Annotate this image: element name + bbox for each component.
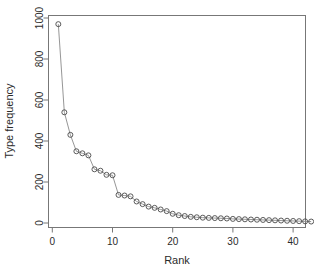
plot-frame [49,16,306,228]
x-axis-ticks: 010203040 [50,228,300,247]
y-tick-label: 1000 [34,6,45,29]
y-axis-ticks: 02004006008001000 [34,6,49,225]
y-tick-label: 200 [34,173,45,190]
x-axis-label: Rank [164,254,190,266]
x-tick-label: 0 [50,236,56,247]
y-tick-label: 800 [34,50,45,67]
data-points [56,22,314,224]
x-tick-label: 10 [107,236,119,247]
x-tick-label: 20 [167,236,179,247]
y-tick-label: 0 [34,220,45,226]
x-tick-label: 40 [288,236,300,247]
x-tick-label: 30 [227,236,239,247]
data-line [58,24,311,221]
chart-figure: 02004006008001000 010203040 Rank Type fr… [0,0,314,273]
y-tick-label: 600 [34,91,45,108]
rank-frequency-plot: 02004006008001000 010203040 Rank Type fr… [0,0,314,273]
y-axis-label: Type frequency [3,83,15,159]
y-tick-label: 400 [34,132,45,149]
